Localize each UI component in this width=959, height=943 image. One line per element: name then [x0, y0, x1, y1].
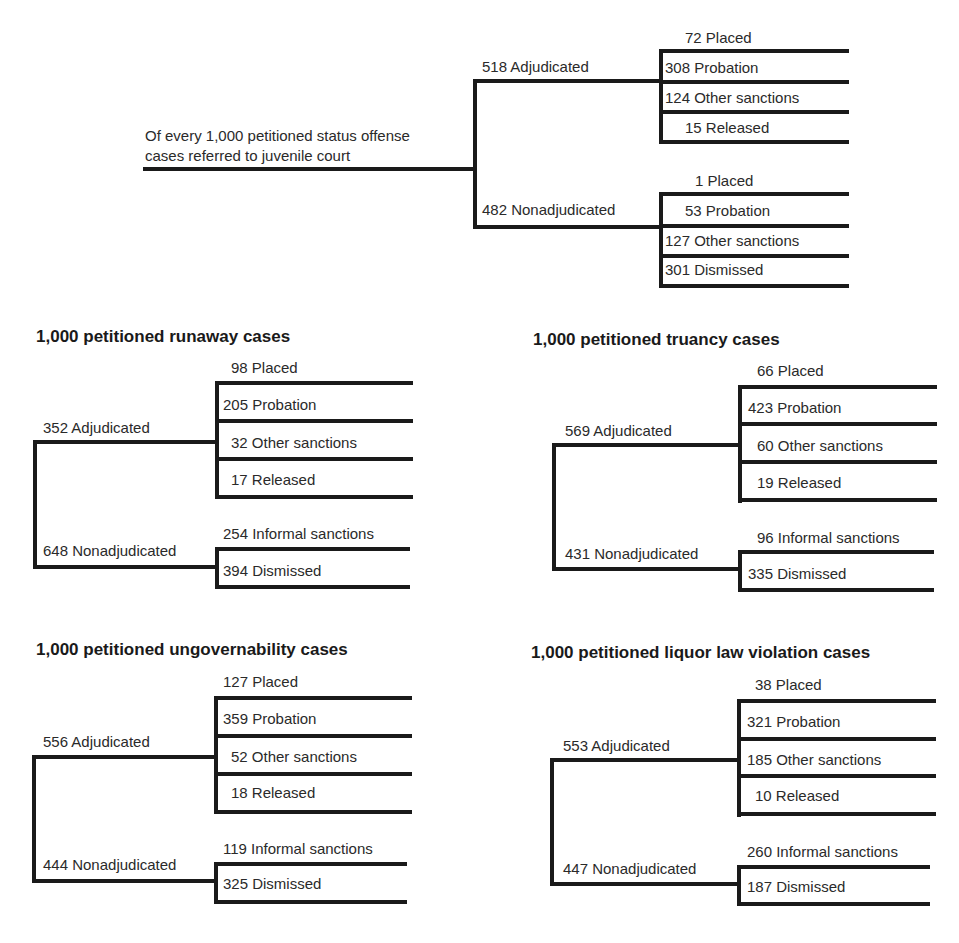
- leaf-line: [214, 862, 407, 866]
- leaf-label: 260 Informal sanctions: [747, 843, 898, 861]
- leaf-label: 335 Dismissed: [748, 565, 846, 583]
- adj-leaf-connector: [737, 699, 741, 817]
- leaf-label: 19 Released: [757, 474, 841, 492]
- nonadjudicated-label: 648 Nonadjudicated: [43, 542, 176, 560]
- leaf-label: 1 Placed: [695, 172, 753, 190]
- adj-leaf-connector: [214, 696, 218, 814]
- leaf-line: [659, 284, 849, 288]
- leaf-line: [738, 550, 934, 554]
- leaf-line: [214, 772, 412, 776]
- leaf-label: 32 Other sanctions: [231, 434, 357, 452]
- nonadj-leaf-connector: [737, 865, 741, 905]
- leaf-label: 423 Probation: [748, 399, 841, 417]
- leaf-label: 10 Released: [755, 787, 839, 805]
- leaf-line: [737, 902, 930, 906]
- tree-title: 1,000 petitioned truancy cases: [533, 330, 780, 350]
- leaf-line: [738, 422, 937, 426]
- leaf-line: [659, 140, 849, 144]
- leaf-line: [215, 585, 410, 589]
- nonadjudicated-line: [550, 882, 740, 886]
- leaf-line: [737, 774, 936, 778]
- leaf-label: 187 Dismissed: [747, 878, 845, 896]
- leaf-line: [214, 900, 407, 904]
- leaf-line: [659, 224, 849, 228]
- leaf-line: [659, 254, 849, 258]
- leaf-label: 96 Informal sanctions: [757, 529, 900, 547]
- leaf-label: 52 Other sanctions: [231, 748, 357, 766]
- nonadjudicated-label: 482 Nonadjudicated: [482, 201, 615, 219]
- adjudicated-line: [473, 79, 663, 83]
- branch-connector: [473, 79, 477, 229]
- leaf-label: 66 Placed: [757, 362, 824, 380]
- leaf-line: [737, 699, 936, 703]
- adjudicated-label: 518 Adjudicated: [482, 58, 589, 76]
- leaf-label: 53 Probation: [685, 202, 770, 220]
- leaf-line: [659, 80, 849, 84]
- leaf-label: 17 Released: [231, 471, 315, 489]
- leaf-label: 124 Other sanctions: [665, 89, 799, 107]
- leaf-line: [214, 734, 412, 738]
- nonadjudicated-label: 444 Nonadjudicated: [43, 856, 176, 874]
- leaf-line: [214, 810, 412, 814]
- tree-title: 1,000 petitioned liquor law violation ca…: [531, 643, 870, 663]
- branch-connector: [32, 755, 36, 882]
- leaf-label: 127 Other sanctions: [665, 232, 799, 250]
- leaf-line: [738, 385, 937, 389]
- adj-leaf-connector: [659, 49, 663, 144]
- leaf-label: 98 Placed: [231, 359, 298, 377]
- nonadjudicated-line: [33, 565, 218, 569]
- root-line: [143, 167, 477, 171]
- nonadjudicated-label: 431 Nonadjudicated: [565, 545, 698, 563]
- adjudicated-line: [552, 443, 741, 447]
- leaf-line: [659, 192, 849, 196]
- adj-leaf-connector: [738, 385, 742, 503]
- root-label-line2: cases referred to juvenile court: [145, 147, 350, 165]
- leaf-line: [738, 498, 937, 502]
- leaf-line: [215, 419, 413, 423]
- leaf-label: 394 Dismissed: [223, 562, 321, 580]
- tree-title: 1,000 petitioned ungovernability cases: [36, 640, 348, 660]
- leaf-line: [215, 547, 410, 551]
- adjudicated-line: [550, 758, 740, 762]
- leaf-line: [214, 696, 412, 700]
- adjudicated-line: [33, 440, 218, 444]
- leaf-label: 254 Informal sanctions: [223, 525, 374, 543]
- leaf-label: 18 Released: [231, 784, 315, 802]
- leaf-label: 127 Placed: [223, 673, 298, 691]
- leaf-label: 72 Placed: [685, 29, 752, 47]
- adjudicated-label: 352 Adjudicated: [43, 419, 150, 437]
- leaf-line: [737, 737, 936, 741]
- branch-connector: [33, 440, 37, 567]
- branch-connector: [550, 758, 554, 885]
- leaf-line: [737, 812, 936, 816]
- leaf-label: 301 Dismissed: [665, 261, 763, 279]
- adj-leaf-connector: [215, 381, 219, 499]
- tree-title: 1,000 petitioned runaway cases: [36, 327, 290, 347]
- adjudicated-label: 556 Adjudicated: [43, 733, 150, 751]
- leaf-label: 38 Placed: [755, 676, 822, 694]
- leaf-line: [738, 460, 937, 464]
- leaf-line: [659, 49, 849, 53]
- leaf-label: 15 Released: [685, 119, 769, 137]
- adjudicated-label: 553 Adjudicated: [563, 737, 670, 755]
- adjudicated-label: 569 Adjudicated: [565, 422, 672, 440]
- nonadjudicated-line: [32, 879, 217, 883]
- nonadj-leaf-connector: [215, 547, 219, 587]
- leaf-line: [215, 381, 413, 385]
- nonadj-leaf-connector: [738, 550, 742, 590]
- nonadj-leaf-connector: [659, 192, 663, 288]
- root-label-line1: Of every 1,000 petitioned status offense: [145, 127, 410, 145]
- leaf-label: 119 Informal sanctions: [223, 840, 373, 858]
- leaf-label: 359 Probation: [223, 710, 316, 728]
- leaf-label: 325 Dismissed: [223, 875, 321, 893]
- nonadjudicated-line: [552, 567, 741, 571]
- leaf-label: 308 Probation: [665, 59, 758, 77]
- nonadjudicated-line: [473, 225, 663, 229]
- leaf-label: 60 Other sanctions: [757, 437, 883, 455]
- nonadjudicated-label: 447 Nonadjudicated: [563, 860, 696, 878]
- leaf-line: [215, 495, 413, 499]
- branch-connector: [552, 443, 556, 570]
- leaf-line: [659, 110, 849, 114]
- leaf-label: 205 Probation: [223, 396, 316, 414]
- leaf-label: 321 Probation: [747, 713, 840, 731]
